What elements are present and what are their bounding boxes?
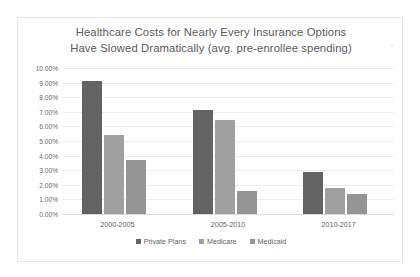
legend-item-private-plans[interactable]: Private Plans [136,237,186,246]
plot-area: 10.00%9.00%8.00%7.00%6.00%5.00%4.00%3.00… [62,68,394,214]
bar-medicare [215,120,235,214]
y-axis-tick-label: 10.00% [36,65,58,72]
y-axis-tick-label: 4.00% [39,152,58,159]
legend-swatch-icon [199,239,204,244]
y-axis-tick-label: 5.00% [39,138,58,145]
bar-medicaid [347,194,367,214]
y-axis-tick-label: 3.00% [39,167,58,174]
chart-legend: Private PlansMedicareMedicaid [18,237,404,246]
y-axis-tick-label: 2.00% [39,181,58,188]
chart-title-line-1: Healthcare Costs for Nearly Every Insura… [18,24,404,40]
chart-card: Healthcare Costs for Nearly Every Insura… [17,17,403,262]
scan-artifact-speck [391,44,393,46]
bar-group [62,68,173,214]
y-axis-tick-label: 6.00% [39,123,58,130]
bar-medicare [325,188,345,214]
y-axis-tick-label: 8.00% [39,94,58,101]
legend-item-medicaid[interactable]: Medicaid [250,237,287,246]
x-axis-category-label: 2005-2010 [173,220,284,229]
legend-label: Medicare [207,237,237,246]
bar-group [283,68,394,214]
bar-private-plans [193,110,213,214]
legend-item-medicare[interactable]: Medicare [199,237,237,246]
axis-baseline [62,214,394,215]
bar-medicaid [237,191,257,214]
legend-swatch-icon [136,239,141,244]
chart-title-line-2: Have Slowed Dramatically (avg. pre-enrol… [18,40,404,56]
bar-medicaid [126,160,146,214]
y-axis-tick-label: 0.00% [39,211,58,218]
legend-swatch-icon [250,239,255,244]
bar-group [173,68,284,214]
x-axis-category-label: 2000-2005 [62,220,173,229]
bar-private-plans [303,172,323,214]
y-axis-tick-label: 7.00% [39,108,58,115]
y-axis-tick-label: 1.00% [39,196,58,203]
chart-title: Healthcare Costs for Nearly Every Insura… [18,24,404,56]
legend-label: Private Plans [144,237,186,246]
y-axis-tick-label: 9.00% [39,79,58,86]
legend-label: Medicaid [258,237,287,246]
bar-private-plans [82,81,102,214]
x-axis-category-label: 2010-2017 [283,220,394,229]
bar-medicare [104,135,124,214]
